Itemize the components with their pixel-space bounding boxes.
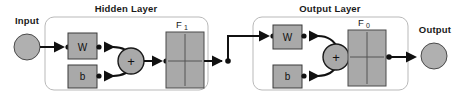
diagram-canvas: Hidden Layer Output Layer Input W b + [0, 0, 469, 102]
input-label: Input [15, 15, 40, 26]
hidden-bias-label: b [80, 71, 86, 82]
neural-network-diagram: Hidden Layer Output Layer Input W b + [0, 0, 469, 102]
output-transfer-function-subscript: 0 [366, 22, 370, 29]
output-node-circle [421, 43, 447, 69]
arrowhead-hidden-sum-to-transfer [152, 56, 163, 67]
arrowhead-hidden-weight-to-sum [104, 42, 115, 53]
junction-dot-output-bias-out [301, 73, 306, 78]
arrowhead-output-bias-to-sum [309, 71, 320, 82]
hidden-summation-label: + [127, 54, 135, 69]
output-transfer-function-label: F [358, 17, 364, 28]
arrowhead-input-to-hidden-weight [54, 42, 65, 53]
arrowhead-to-output-node [406, 52, 417, 63]
junction-dot-hidden-bias-out [96, 73, 101, 78]
hidden-weight-label: W [78, 42, 88, 53]
hidden-layer-title: Hidden Layer [95, 3, 158, 14]
arrowhead-hidden-transfer-out [212, 56, 223, 67]
output-bias-label: b [285, 71, 291, 82]
arrowhead-output-weight-to-sum [309, 31, 320, 42]
output-layer-title: Output Layer [299, 3, 361, 14]
input-node-circle [14, 34, 40, 60]
junction-dot-output-weight-out [301, 33, 306, 38]
arrowhead-interlayer-to-output-weight [259, 31, 270, 42]
output-label: Output [419, 24, 452, 35]
hidden-transfer-function-label: F [176, 19, 182, 30]
junction-dot-hidden-weight-out [96, 44, 101, 49]
output-weight-label: W [283, 32, 293, 43]
hidden-transfer-function-subscript: 1 [184, 24, 188, 31]
arrowhead-hidden-bias-to-sum [104, 71, 115, 82]
output-summation-label: + [332, 50, 340, 65]
